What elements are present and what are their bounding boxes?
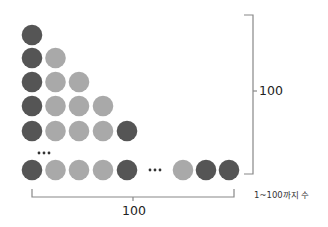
horizontal-bracket <box>32 189 234 201</box>
circle-light <box>45 121 66 142</box>
circle-light <box>45 48 66 69</box>
circle-light <box>45 96 66 117</box>
circle-light <box>69 160 90 181</box>
circle-dark <box>117 121 138 142</box>
circle-dark <box>219 160 240 181</box>
circle-dark <box>22 96 43 117</box>
circle-dark <box>22 160 43 181</box>
circle-dark <box>196 160 217 181</box>
circle-dark <box>22 48 43 69</box>
circle-light <box>69 96 90 117</box>
circle-light <box>173 160 194 181</box>
range-label: 1~100까지 수 <box>254 188 309 200</box>
circle-dark <box>22 72 43 93</box>
circle-light <box>45 160 66 181</box>
circle-dark <box>22 121 43 142</box>
ellipsis-horizontal <box>149 169 162 172</box>
vertical-bracket-label: 100 <box>259 83 283 98</box>
circle-dark <box>22 25 43 46</box>
ellipsis-vertical <box>38 152 51 155</box>
vertical-bracket <box>244 15 257 174</box>
circle-light <box>93 121 114 142</box>
circle-light <box>69 72 90 93</box>
circle-light <box>45 72 66 93</box>
circle-light <box>69 121 90 142</box>
circle-light <box>93 96 114 117</box>
circle-dark <box>117 160 138 181</box>
horizontal-bracket-label: 100 <box>122 203 146 218</box>
circle-grid <box>22 25 240 181</box>
circle-light <box>93 160 114 181</box>
